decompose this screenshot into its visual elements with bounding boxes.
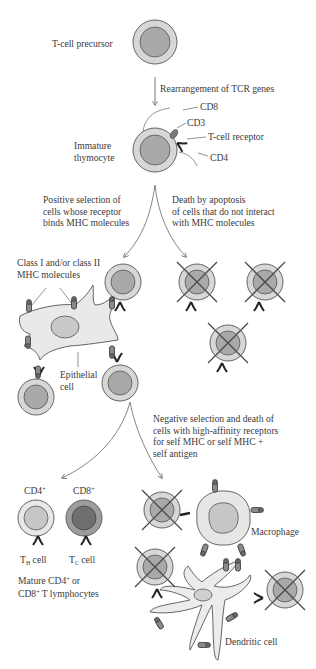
positive-selection-line1: Positive selection of bbox=[43, 194, 129, 206]
mature-line1-a: Mature CD4 bbox=[18, 575, 66, 586]
cd8-mature-cell bbox=[66, 500, 102, 545]
epithelial-line1: Epithelial bbox=[60, 369, 97, 381]
cd4-marker-label: CD4 bbox=[210, 152, 228, 164]
immature-label-line2: thymocyte bbox=[74, 152, 115, 164]
cd4-plus-label: CD4+ bbox=[24, 484, 46, 497]
negative-selection-label: Negative selection and death of cells wi… bbox=[153, 413, 278, 459]
positive-selection-line3: binds MHC molecules bbox=[43, 217, 129, 229]
mature-line2-b: T lymphocytes bbox=[40, 588, 99, 599]
apoptotic-cell bbox=[254, 570, 305, 610]
apoptotic-cell bbox=[177, 262, 217, 311]
rearrangement-label: Rearrangement of TCR genes bbox=[160, 83, 274, 95]
plus-sup: + bbox=[42, 486, 45, 492]
apoptosis-line3: with MHC molecules bbox=[172, 217, 275, 229]
cd4-text: CD4 bbox=[24, 485, 42, 496]
epithelial-cell bbox=[19, 285, 118, 360]
mature-line2-a: CD8 bbox=[18, 588, 36, 599]
cd8-marker-label: CD8 bbox=[200, 101, 218, 113]
negative-selection-line2: cells with high-affinity receptors bbox=[153, 425, 278, 437]
positive-selection-line2: cells whose receptor bbox=[43, 206, 129, 218]
positive-selection-label: Positive selection of cells whose recept… bbox=[43, 194, 129, 229]
apoptosis-label: Death by apoptosis of cells that do not … bbox=[172, 194, 275, 229]
cd8-plus-label: CD8+ bbox=[73, 484, 95, 497]
mhc-line2: MHC molecules bbox=[17, 269, 100, 281]
precursor-cell bbox=[133, 20, 177, 64]
plus-sup: + bbox=[91, 486, 94, 492]
apoptotic-cell bbox=[208, 323, 248, 372]
mhc-molecules-label: Class I and/or class II MHC molecules bbox=[17, 257, 100, 280]
precursor-label: T-cell precursor bbox=[52, 38, 113, 50]
apoptosis-line1: Death by apoptosis bbox=[172, 194, 275, 206]
epithelial-label: Epithelial cell bbox=[60, 369, 97, 392]
negative-selection-line3: for self MHC or self MHC + bbox=[153, 436, 278, 448]
cd4-mature-cell bbox=[18, 500, 54, 545]
apoptotic-cell bbox=[142, 490, 182, 530]
mature-summary-label: Mature CD4+ or CD8+ T lymphocytes bbox=[18, 574, 99, 599]
mature-line2: CD8+ T lymphocytes bbox=[18, 587, 99, 600]
mature-arrow bbox=[62, 402, 130, 478]
cd3-marker-label: CD3 bbox=[187, 117, 205, 129]
selected-thymocyte bbox=[102, 353, 138, 401]
immature-label-line1: Immature bbox=[74, 140, 115, 152]
epithelial-line2: cell bbox=[60, 381, 97, 393]
apoptotic-cell bbox=[245, 262, 285, 311]
cd8-text: CD8 bbox=[73, 485, 91, 496]
apoptosis-line2: of cells that do not interact bbox=[172, 206, 275, 218]
negative-selection-line1: Negative selection and death of bbox=[153, 413, 278, 425]
thymic-selection-diagram bbox=[0, 0, 316, 669]
tcr-marker-label: T-cell receptor bbox=[208, 131, 264, 143]
mature-line1: Mature CD4+ or bbox=[18, 574, 99, 587]
dendritic-label: Dendritic cell bbox=[225, 636, 277, 648]
th-cell-label: TH cell bbox=[20, 554, 46, 570]
negative-selection-line4: self antigen bbox=[153, 448, 278, 460]
mature-line1-b: or bbox=[70, 575, 80, 586]
immature-label: Immature thymocyte bbox=[74, 140, 115, 163]
tc-suffix: cell bbox=[79, 554, 95, 565]
macrophage bbox=[197, 480, 264, 557]
tc-cell-label: TC cell bbox=[69, 554, 95, 570]
macrophage-label: Macrophage bbox=[251, 526, 299, 538]
mhc-line1: Class I and/or class II bbox=[17, 257, 100, 269]
th-suffix: cell bbox=[30, 554, 46, 565]
